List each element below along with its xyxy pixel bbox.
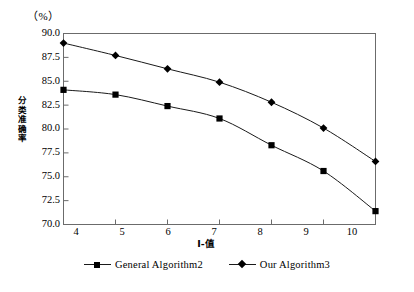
series-diamond	[60, 39, 380, 165]
legend-item-our-algorithm3: Our Algorithm3	[229, 259, 330, 270]
legend-item-general-algorithm2: General Algorithm2	[84, 259, 203, 270]
data-series-layer	[60, 39, 380, 214]
legend-label: General Algorithm2	[115, 259, 203, 270]
diamond-marker-icon	[229, 260, 256, 269]
square-marker-icon	[84, 260, 111, 269]
legend-label: Our Algorithm3	[260, 259, 330, 270]
y-axis-ticks	[64, 34, 69, 225]
x-axis-ticks	[64, 220, 376, 225]
chart-figure: （%） 分 类 准 确 率 90.0 87.5 85.0 82.5 80.0 7…	[0, 0, 414, 292]
x-axis-title: I-值	[176, 236, 236, 250]
series-square	[60, 87, 378, 214]
chart-legend: General Algorithm2 Our Algorithm3	[0, 259, 414, 270]
plot-frame	[64, 34, 376, 225]
